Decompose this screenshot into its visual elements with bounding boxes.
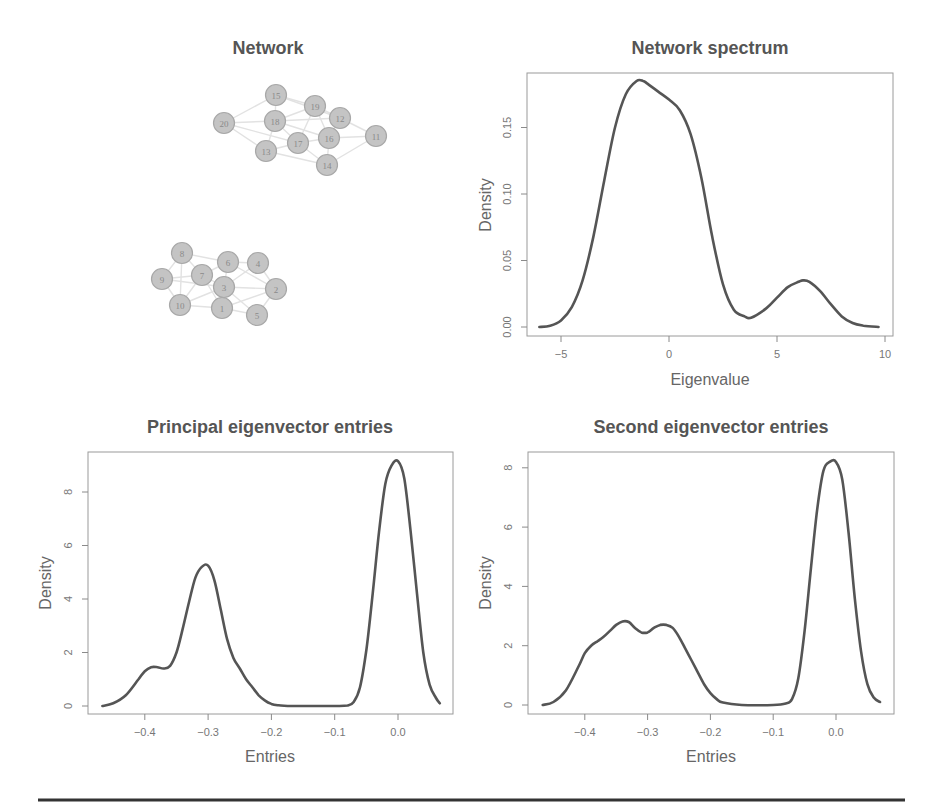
- x-tick-label: 0: [666, 348, 672, 360]
- network-node: 7: [192, 265, 213, 286]
- node-label: 14: [323, 161, 333, 171]
- y-tick-label: 0: [502, 702, 514, 708]
- network-node: 19: [305, 96, 326, 117]
- node-label: 1: [220, 304, 225, 314]
- y-tick-label: 0.05: [501, 250, 513, 271]
- network-node: 4: [248, 253, 269, 274]
- second-plot-frame: [528, 452, 894, 714]
- network-nodes: 2015181912131716141189764321015: [152, 85, 387, 326]
- second-title: Second eigenvector entries: [593, 417, 828, 437]
- y-tick-label: 8: [62, 489, 74, 495]
- y-tick-label: 4: [62, 596, 74, 602]
- spectrum-title: Network spectrum: [631, 38, 788, 58]
- network-node: 10: [170, 295, 191, 316]
- network-node: 15: [266, 85, 287, 106]
- x-tick-label: −0.4: [574, 726, 596, 738]
- x-tick-label: −0.1: [324, 726, 346, 738]
- principal-x-label: Entries: [245, 748, 295, 765]
- second-x-axis: −0.4−0.3−0.2−0.10.0: [574, 714, 844, 738]
- y-tick-label: 6: [62, 542, 74, 548]
- node-label: 2: [274, 285, 279, 295]
- spectrum-density-curve: [539, 80, 878, 327]
- y-tick-label: 4: [502, 583, 514, 589]
- y-tick-label: 0.10: [501, 183, 513, 204]
- x-tick-label: −0.2: [700, 726, 722, 738]
- principal-x-axis: −0.4−0.3−0.2−0.10.0: [134, 714, 406, 738]
- y-tick-label: 8: [502, 465, 514, 471]
- x-tick-label: 5: [774, 348, 780, 360]
- y-tick-label: 0.15: [501, 117, 513, 138]
- network-node: 5: [247, 305, 268, 326]
- spectrum-x-axis: −50510: [555, 336, 891, 360]
- network-title: Network: [232, 38, 304, 58]
- network-node: 6: [218, 252, 239, 273]
- node-label: 7: [200, 271, 205, 281]
- spectrum-y-axis: 0.000.050.100.15: [501, 117, 527, 338]
- network-node: 13: [256, 141, 277, 162]
- principal-y-label: Density: [37, 556, 54, 609]
- network-node: 14: [317, 155, 338, 176]
- x-tick-label: −0.1: [762, 726, 784, 738]
- second-panel: Second eigenvector entries −0.4−0.3−0.2−…: [477, 417, 894, 765]
- node-label: 12: [336, 114, 345, 124]
- principal-title: Principal eigenvector entries: [147, 417, 393, 437]
- node-label: 9: [160, 275, 165, 285]
- node-label: 8: [180, 249, 185, 259]
- node-label: 16: [325, 134, 335, 144]
- node-label: 18: [271, 117, 281, 127]
- y-tick-label: 0.00: [501, 316, 513, 337]
- figure: Network 2015181912131716141189764321015 …: [0, 0, 926, 807]
- node-label: 13: [262, 147, 272, 157]
- x-tick-label: 0.0: [828, 726, 843, 738]
- network-node: 17: [288, 133, 309, 154]
- spectrum-panel: Network spectrum −50510 0.000.050.100.15…: [477, 38, 893, 388]
- node-label: 20: [220, 119, 230, 129]
- node-label: 4: [256, 259, 261, 269]
- principal-panel: Principal eigenvector entries −0.4−0.3−0…: [37, 417, 453, 765]
- y-tick-label: 0: [62, 703, 74, 709]
- second-x-label: Entries: [686, 748, 736, 765]
- x-tick-label: 10: [879, 348, 891, 360]
- network-node: 8: [172, 243, 193, 264]
- node-label: 17: [294, 139, 304, 149]
- x-tick-label: −5: [555, 348, 568, 360]
- principal-density-curve: [102, 460, 439, 706]
- node-label: 19: [311, 102, 321, 112]
- network-node: 9: [152, 269, 173, 290]
- node-label: 15: [272, 91, 282, 101]
- spectrum-plot-frame: [527, 73, 893, 336]
- x-tick-label: −0.2: [261, 726, 283, 738]
- network-node: 20: [214, 113, 235, 134]
- node-label: 5: [255, 311, 260, 321]
- network-panel: Network 2015181912131716141189764321015: [152, 38, 387, 326]
- y-tick-label: 2: [502, 643, 514, 649]
- y-tick-label: 6: [502, 524, 514, 530]
- second-y-axis: 02468: [502, 465, 528, 708]
- node-label: 10: [176, 301, 186, 311]
- y-tick-label: 2: [62, 649, 74, 655]
- x-tick-label: −0.4: [134, 726, 156, 738]
- x-tick-label: −0.3: [197, 726, 219, 738]
- second-y-label: Density: [477, 556, 494, 609]
- node-label: 6: [226, 258, 231, 268]
- second-density-curve: [543, 460, 880, 705]
- x-tick-label: −0.3: [637, 726, 659, 738]
- x-tick-label: 0.0: [390, 726, 405, 738]
- spectrum-y-label: Density: [477, 178, 494, 231]
- network-node: 16: [319, 128, 340, 149]
- network-node: 1: [212, 298, 233, 319]
- node-label: 3: [222, 283, 227, 293]
- network-node: 12: [330, 108, 351, 129]
- principal-y-axis: 02468: [62, 489, 88, 709]
- node-label: 11: [372, 132, 381, 142]
- network-node: 3: [214, 277, 235, 298]
- spectrum-x-label: Eigenvalue: [670, 371, 749, 388]
- network-node: 11: [366, 126, 387, 147]
- network-node: 18: [265, 111, 286, 132]
- network-node: 2: [266, 279, 287, 300]
